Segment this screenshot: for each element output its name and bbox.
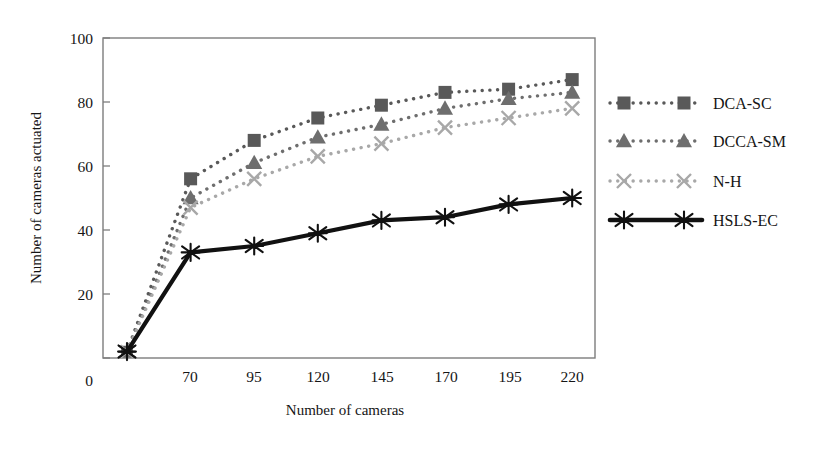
square-marker [618,97,631,110]
y-tick-label: 40 [78,222,94,239]
square-marker [248,134,261,147]
square-marker [311,112,324,125]
y-tick-label: 80 [78,94,94,111]
y-tick-label: 0 [85,372,93,389]
x-tick-label: 220 [560,368,584,385]
x-tick-label: 170 [434,368,458,385]
legend-label: DCCA-SM [713,133,786,150]
y-tick-label: 20 [78,286,94,303]
square-marker [184,172,197,185]
square-marker [375,99,388,112]
x-tick-label: 120 [306,368,330,385]
legend-label: N-H [713,173,742,190]
chart-figure: 100 80 60 40 20 0 70 95 120 145 170 195 … [0,0,836,465]
square-marker [566,73,579,86]
legend-label: DCA-SC [713,95,772,112]
chart-background [0,0,836,465]
x-tick-label: 195 [498,368,522,385]
x-axis-title: Number of cameras [286,402,404,418]
y-tick-label: 60 [78,158,94,175]
square-marker [678,97,691,110]
y-tick-label: 100 [70,30,94,47]
y-axis-title: Number of cameras actuated [28,112,44,284]
square-marker [439,86,452,99]
x-tick-label: 70 [182,368,198,385]
legend-label: HSLS-EC [713,212,778,229]
x-tick-label: 145 [370,368,394,385]
line-chart: 100 80 60 40 20 0 70 95 120 145 170 195 … [0,0,836,465]
x-tick-label: 95 [246,368,262,385]
